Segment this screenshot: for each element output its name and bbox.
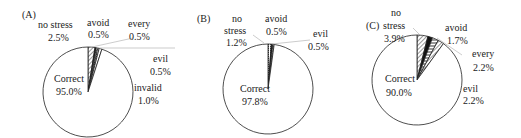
chart-b-title: (B) xyxy=(197,13,210,25)
label-a-no-stress: no stress xyxy=(38,19,73,30)
label-c-evil: evil xyxy=(463,83,478,94)
value-c-correct: 90.0% xyxy=(386,87,412,98)
value-a-avoid: 0.5% xyxy=(88,29,109,40)
value-c-every: 2.2% xyxy=(473,62,494,73)
label-a-evil: evil xyxy=(153,53,168,64)
value-b-evil: 0.5% xyxy=(308,41,329,52)
value-b-avoid: 0.5% xyxy=(266,26,287,37)
value-a-every: 0.5% xyxy=(129,31,150,42)
label-a-every: every xyxy=(128,18,150,29)
label-a-invalid: invalid xyxy=(134,82,162,93)
label-a-correct: Correct xyxy=(54,73,84,84)
chart-c-title: (C) xyxy=(366,20,379,32)
label-b-avoid: avoid xyxy=(265,13,287,24)
label-c-avoid: avoid xyxy=(445,22,467,33)
chart-a-title: (A) xyxy=(22,9,36,21)
label-b-evil: evil xyxy=(313,28,328,39)
pie-charts: (A) no stress 2.5% avoid 0.5% every 0.5%… xyxy=(0,0,521,138)
label-a-avoid: avoid xyxy=(87,17,109,28)
label-b-stress: stress xyxy=(224,25,246,36)
value-a-evil: 0.5% xyxy=(150,66,171,77)
value-c-evil: 2.2% xyxy=(463,95,484,106)
label-c-no: no xyxy=(391,7,401,18)
label-b-correct: Correct xyxy=(240,83,270,94)
value-a-correct: 95.0% xyxy=(56,86,82,97)
value-c-no-stress: 3.9% xyxy=(384,33,405,44)
label-c-every: every xyxy=(472,48,494,59)
label-c-correct: Correct xyxy=(385,73,415,84)
value-a-invalid: 1.0% xyxy=(138,95,159,106)
value-b-no-stress: 1.2% xyxy=(226,37,247,48)
label-b-no: no xyxy=(232,13,242,24)
value-a-no-stress: 2.5% xyxy=(48,32,69,43)
value-c-avoid: 1.7% xyxy=(447,35,468,46)
value-b-correct: 97.8% xyxy=(242,96,268,107)
label-c-stress: stress xyxy=(383,20,405,31)
